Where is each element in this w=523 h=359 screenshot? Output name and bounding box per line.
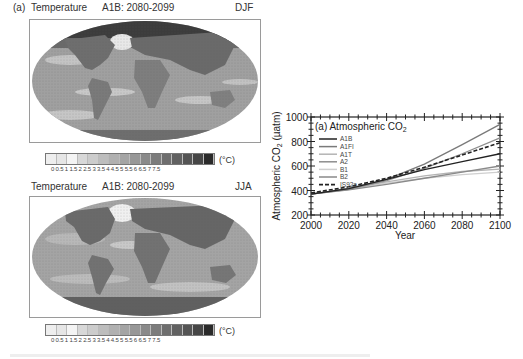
jja-scenario-title: A1B: 2080-2099 — [102, 181, 174, 192]
colorbar-swatch — [183, 325, 194, 335]
colorbar-swatch — [99, 154, 110, 164]
colorbar-swatch — [172, 154, 183, 164]
colorbar-swatch — [162, 154, 173, 164]
colorbar-swatch — [141, 154, 152, 164]
jja-colorbar — [45, 324, 215, 336]
djf-scenario-title: A1B: 2080-2099 — [102, 2, 174, 13]
colorbar-swatch — [57, 154, 68, 164]
y-axis-label: Atmospheric CO2 (µatm) — [271, 111, 283, 220]
legend-label-is92a: IS92a — [340, 181, 357, 188]
jja-map-frame — [29, 196, 261, 318]
colorbar-swatch — [88, 325, 99, 335]
colorbar-swatch — [109, 154, 120, 164]
colorbar-swatch — [172, 325, 183, 335]
djf-map-frame — [29, 19, 261, 143]
caption-fragment — [10, 354, 370, 357]
jja-season-label: JJA — [235, 181, 252, 192]
djf-colorbar-ticks: 0 0.5 1 1.5 2 2.5 3 3.5 4 4.5 5 5.5 6 6.… — [51, 166, 160, 172]
colorbar-swatch — [88, 154, 99, 164]
colorbar-swatch — [67, 154, 78, 164]
y-tick-labels: 1000 800 600 400 200 — [286, 112, 309, 221]
legend-label-a1fi: A1FI — [340, 143, 354, 150]
legend-label-b1: B1 — [340, 166, 348, 173]
colorbar-swatch — [204, 325, 215, 335]
djf-season-label: DJF — [235, 2, 253, 13]
co2-chart: 1000 800 600 400 200 2000 2020 2040 2060… — [268, 105, 523, 245]
colorbar-swatch — [193, 154, 204, 164]
legend-label-a2: A2 — [340, 158, 348, 165]
x-tick-label: 2100 — [489, 220, 512, 231]
colorbar-swatch — [162, 325, 173, 335]
colorbar-swatch — [57, 325, 68, 335]
djf-temperature-map — [30, 20, 260, 142]
chart-title: (a) Atmospheric CO2 — [315, 121, 407, 133]
legend-label-a1t: A1T — [340, 151, 352, 158]
colorbar-swatch — [204, 154, 215, 164]
djf-colorbar-unit: (°C) — [219, 155, 235, 165]
colorbar-swatch — [109, 325, 120, 335]
legend: A1BA1FIA1TA2B1B2IS92a — [319, 135, 357, 188]
colorbar-swatch — [78, 154, 89, 164]
colorbar-swatch — [183, 154, 194, 164]
colorbar-swatch — [67, 325, 78, 335]
colorbar-swatch — [99, 325, 110, 335]
colorbar-swatch — [130, 325, 141, 335]
y-tick-label: 800 — [291, 137, 308, 148]
colorbar-swatch — [46, 325, 57, 335]
y-tick-label: 600 — [291, 161, 308, 172]
legend-label-b2: B2 — [340, 173, 348, 180]
colorbar-swatch — [120, 325, 131, 335]
x-axis-label: Year — [395, 230, 416, 241]
panel-label-a: (a) — [13, 2, 25, 13]
colorbar-swatch — [46, 154, 57, 164]
legend-label-a1b: A1B — [340, 135, 352, 142]
colorbar-swatch — [130, 154, 141, 164]
colorbar-swatch — [141, 325, 152, 335]
colorbar-swatch — [120, 154, 131, 164]
colorbar-swatch — [193, 325, 204, 335]
djf-colorbar — [45, 153, 215, 165]
x-tick-label: 2020 — [338, 220, 361, 231]
djf-variable-title: Temperature — [31, 2, 87, 13]
x-tick-label: 2080 — [451, 220, 474, 231]
x-tick-label: 2000 — [300, 220, 323, 231]
y-tick-label: 1000 — [286, 112, 309, 123]
jja-temperature-map — [30, 197, 260, 317]
colorbar-swatch — [78, 325, 89, 335]
jja-colorbar-ticks: 0 0.5 1 1.5 2 2.5 3 3.5 4 4.5 5 5.5 6 6.… — [51, 337, 160, 343]
colorbar-swatch — [151, 154, 162, 164]
y-tick-label: 400 — [291, 186, 308, 197]
colorbar-swatch — [151, 325, 162, 335]
x-tick-label: 2060 — [413, 220, 436, 231]
jja-variable-title: Temperature — [31, 181, 87, 192]
jja-colorbar-unit: (°C) — [219, 326, 235, 336]
